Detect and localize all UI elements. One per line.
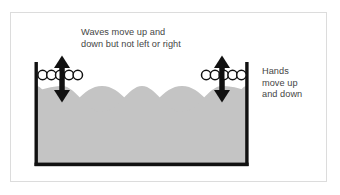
left-arrow-shaft-overlay <box>60 63 65 95</box>
water-surface <box>36 86 247 164</box>
tank-left-wall <box>35 62 38 166</box>
right-arrow-shaft-overlay <box>220 63 225 95</box>
water-surface-shape <box>36 86 247 164</box>
diagram-canvas: Waves move up and down but not left or r… <box>0 0 340 195</box>
hands-annotation-label: Hands move up and down <box>262 66 332 101</box>
tank-bottom-wall <box>35 163 249 167</box>
waves-annotation-label: Waves move up and down but not left or r… <box>81 27 226 50</box>
